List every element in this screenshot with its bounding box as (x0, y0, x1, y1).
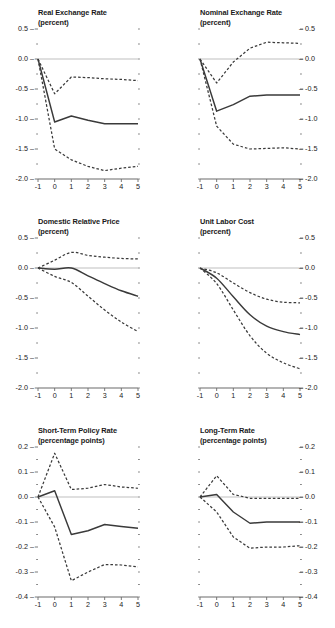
x-axis-tick-label: 0 (53, 182, 57, 191)
x-axis-tick-label: 3 (265, 600, 269, 609)
y-axis-tick-label: – 0.2 (299, 443, 329, 451)
panel-subtitle: (percent) (38, 18, 69, 28)
y-axis-tick-label: -2.0 – (4, 384, 34, 392)
x-axis-tick-label: 2 (86, 182, 90, 191)
y-axis-tick-label: -0.2 – (4, 543, 34, 551)
panel-subtitle: (percentage points) (38, 436, 105, 446)
y-axis-tick-label: – -2.0 (299, 384, 329, 392)
panel-title: Unit Labor Cost (200, 217, 254, 227)
y-axis-tick-label: 0.0 – (4, 55, 34, 63)
y-axis-tick-label: – -1.5 (299, 145, 329, 153)
chart-row-2: Domestic Relative Price (percent) 0.5 –0… (0, 209, 335, 418)
x-axis-labels: -1012345 (38, 391, 138, 403)
y-axis-tick-label: – -0.5 (299, 294, 329, 302)
y-axis-tick-label: -1.0 – (4, 324, 34, 332)
plot-area (38, 447, 138, 597)
x-axis-tick-label: 1 (231, 182, 235, 191)
y-axis-tick-label: -1.5 – (4, 145, 34, 153)
x-axis-tick-label: 4 (281, 391, 285, 400)
chart-panel-real-exchange-rate: Real Exchange Rate (percent) 0.5 –0.0 –-… (0, 0, 167, 209)
y-axis-tick-label: -0.5 – (4, 85, 34, 93)
y-axis-tick-label: – -0.3 (299, 568, 329, 576)
y-axis-tick-label: – 0.0 (299, 264, 329, 272)
x-axis-tick-label: 1 (69, 600, 73, 609)
x-axis-tick-label: 0 (215, 600, 219, 609)
y-axis-tick-label: – 0.5 (299, 25, 329, 33)
panel-title: Real Exchange Rate (38, 8, 107, 18)
y-axis-tick-label: 0.5 – (4, 234, 34, 242)
x-axis-tick-label: 5 (136, 182, 140, 191)
y-axis-tick-label: -0.3 – (4, 568, 34, 576)
panel-subtitle: (percent) (200, 18, 231, 28)
y-axis-tick-label: -1.5 – (4, 354, 34, 362)
x-axis-tick-label: 2 (248, 391, 252, 400)
y-axis-tick-label: 0.5 – (4, 25, 34, 33)
chart-panel-unit-labor-cost: Unit Labor Cost (percent) – 0.5– 0.0– -0… (168, 209, 335, 418)
x-axis-tick-label: 3 (265, 391, 269, 400)
panel-subtitle: (percentage points) (200, 436, 267, 446)
plot-area (200, 447, 300, 597)
x-axis-labels: -1012345 (200, 600, 300, 612)
y-axis-tick-label: -0.5 – (4, 294, 34, 302)
y-axis-tick-label: – -0.4 (299, 593, 329, 601)
x-axis-tick-label: 5 (136, 600, 140, 609)
x-axis-tick-label: 4 (281, 182, 285, 191)
x-axis-labels: -1012345 (200, 391, 300, 403)
y-axis-tick-label: – 0.0 (299, 55, 329, 63)
x-axis-tick-label: 3 (103, 600, 107, 609)
y-axis-tick-label: – 0.5 (299, 234, 329, 242)
y-axis-tick-label: 0.2 – (4, 443, 34, 451)
panel-title: Short-Term Policy Rate (38, 426, 117, 436)
chart-panel-nominal-exchange-rate: Nominal Exchange Rate (percent) – 0.5– 0… (168, 0, 335, 209)
y-axis-tick-label: – -0.1 (299, 518, 329, 526)
panel-subtitle: (percent) (200, 227, 231, 237)
x-axis-tick-label: 0 (215, 182, 219, 191)
x-axis-labels: -1012345 (38, 182, 138, 194)
figure-panel-grid: Real Exchange Rate (percent) 0.5 –0.0 –-… (0, 0, 335, 628)
x-axis-tick-label: 2 (248, 182, 252, 191)
y-axis-tick-label: – -1.5 (299, 354, 329, 362)
x-axis-tick-label: 0 (215, 391, 219, 400)
chart-panel-long-term-rate: Long-Term Rate (percentage points) – 0.2… (168, 418, 335, 627)
x-axis-tick-label: 2 (86, 600, 90, 609)
x-axis-tick-label: 2 (86, 391, 90, 400)
x-axis-tick-label: 0 (53, 391, 57, 400)
x-axis-tick-label: 5 (298, 391, 302, 400)
y-axis-tick-label: 0.0 – (4, 264, 34, 272)
x-axis-tick-label: 1 (69, 182, 73, 191)
y-axis-tick-label: – -0.5 (299, 85, 329, 93)
y-axis-tick-label: – -1.0 (299, 324, 329, 332)
plot-area (38, 238, 138, 388)
x-axis-tick-label: -1 (197, 391, 203, 400)
x-axis-tick-label: 3 (103, 182, 107, 191)
y-axis-tick-label: -2.0 – (4, 175, 34, 183)
panel-title: Long-Term Rate (200, 426, 255, 436)
y-axis-tick-label: – -1.0 (299, 115, 329, 123)
y-axis-labels: 0.2 –0.1 –0.0 –-0.1 –-0.2 –-0.3 –-0.4 – (4, 447, 34, 597)
x-axis-tick-label: 5 (136, 391, 140, 400)
y-axis-labels: – 0.5– 0.0– -0.5– -1.0– -1.5– -2.0 (299, 29, 329, 179)
plot-area (200, 238, 300, 388)
chart-panel-domestic-relative-price: Domestic Relative Price (percent) 0.5 –0… (0, 209, 167, 418)
y-axis-tick-label: – -0.2 (299, 543, 329, 551)
x-axis-tick-label: -1 (197, 182, 203, 191)
x-axis-tick-label: 4 (119, 391, 123, 400)
x-axis-tick-label: 3 (103, 391, 107, 400)
y-axis-tick-label: – 0.1 (299, 468, 329, 476)
panel-subtitle: (percent) (38, 227, 69, 237)
panel-title: Domestic Relative Price (38, 217, 120, 227)
x-axis-tick-label: -1 (35, 600, 41, 609)
y-axis-labels: – 0.5– 0.0– -0.5– -1.0– -1.5– -2.0 (299, 238, 329, 388)
y-axis-tick-label: -0.1 – (4, 518, 34, 526)
chart-panel-short-term-policy-rate: Short-Term Policy Rate (percentage point… (0, 418, 167, 627)
x-axis-tick-label: 5 (298, 182, 302, 191)
x-axis-labels: -1012345 (38, 600, 138, 612)
x-axis-tick-label: 4 (119, 600, 123, 609)
x-axis-tick-label: 1 (231, 600, 235, 609)
chart-row-3: Short-Term Policy Rate (percentage point… (0, 418, 335, 627)
x-axis-tick-label: 5 (298, 600, 302, 609)
panel-title: Nominal Exchange Rate (200, 8, 282, 18)
x-axis-tick-label: 2 (248, 600, 252, 609)
x-axis-tick-label: -1 (35, 391, 41, 400)
y-axis-tick-label: -0.4 – (4, 593, 34, 601)
